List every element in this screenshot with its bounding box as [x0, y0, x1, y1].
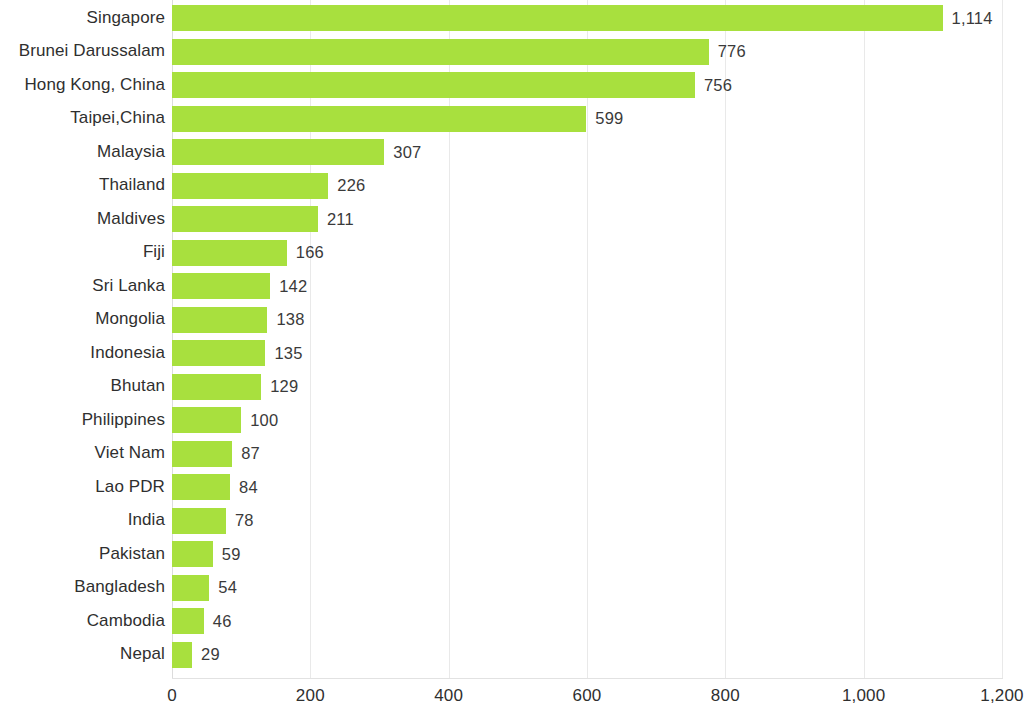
category-label: Bhutan — [0, 376, 165, 396]
category-label: Sri Lanka — [0, 276, 165, 296]
bar[interactable] — [172, 541, 213, 567]
bar-value-label: 29 — [201, 644, 220, 664]
category-label: Pakistan — [0, 544, 165, 564]
bar-row[interactable]: Lao PDR84 — [0, 470, 1033, 504]
category-label: Cambodia — [0, 611, 165, 631]
category-label: Brunei Darussalam — [0, 41, 165, 61]
category-label: Viet Nam — [0, 443, 165, 463]
bar-row[interactable]: Sri Lanka142 — [0, 269, 1033, 303]
bar-value-label: 129 — [270, 376, 298, 396]
bar-value-label: 100 — [250, 410, 278, 430]
category-label: Lao PDR — [0, 477, 165, 497]
x-tick-label: 0 — [167, 684, 177, 708]
bar-value-label: 776 — [718, 41, 746, 61]
bar[interactable] — [172, 608, 204, 634]
bar-value-label: 226 — [337, 175, 365, 195]
category-label: Bangladesh — [0, 577, 165, 597]
bar-value-label: 307 — [393, 142, 421, 162]
bar-row[interactable]: Viet Nam87 — [0, 437, 1033, 471]
bar[interactable] — [172, 106, 586, 132]
category-label: Maldives — [0, 209, 165, 229]
bar[interactable] — [172, 5, 943, 31]
bar[interactable] — [172, 340, 265, 366]
category-label: Hong Kong, China — [0, 75, 165, 95]
bar[interactable] — [172, 374, 261, 400]
bar[interactable] — [172, 441, 232, 467]
bar-value-label: 78 — [235, 510, 254, 530]
category-label: Philippines — [0, 410, 165, 430]
category-label: Indonesia — [0, 343, 165, 363]
bar-row[interactable]: Brunei Darussalam776 — [0, 35, 1033, 69]
bar-row[interactable]: Maldives211 — [0, 202, 1033, 236]
bar-value-label: 59 — [222, 544, 241, 564]
x-axis-tick-labels: 02004006008001,0001,200 — [0, 684, 1033, 714]
bar[interactable] — [172, 642, 192, 668]
bar[interactable] — [172, 307, 267, 333]
category-label: Thailand — [0, 175, 165, 195]
bar-row[interactable]: Bangladesh54 — [0, 571, 1033, 605]
category-label: Taipei,China — [0, 108, 165, 128]
bar[interactable] — [172, 575, 209, 601]
category-label: Mongolia — [0, 309, 165, 329]
bar-row[interactable]: India78 — [0, 504, 1033, 538]
bar-row[interactable]: Bhutan129 — [0, 370, 1033, 404]
bar-row[interactable]: Nepal29 — [0, 638, 1033, 672]
bar-value-label: 211 — [327, 209, 354, 229]
bar-value-label: 87 — [241, 443, 260, 463]
bar-value-label: 599 — [595, 108, 623, 128]
bar-row[interactable]: Indonesia135 — [0, 336, 1033, 370]
bar-row[interactable]: Mongolia138 — [0, 303, 1033, 337]
bar-row[interactable]: Cambodia46 — [0, 604, 1033, 638]
bar-value-label: 135 — [274, 343, 302, 363]
bar-row[interactable]: Thailand226 — [0, 169, 1033, 203]
bar-row[interactable]: Taipei,China599 — [0, 102, 1033, 136]
bar-row[interactable]: Philippines100 — [0, 403, 1033, 437]
bar-row[interactable]: Pakistan59 — [0, 537, 1033, 571]
bar-value-label: 1,114 — [952, 8, 993, 28]
bar-value-label: 756 — [704, 75, 732, 95]
x-axis-line — [172, 678, 1003, 679]
bar-chart: Singapore1,114Brunei Darussalam776Hong K… — [0, 0, 1033, 715]
bar[interactable] — [172, 474, 230, 500]
category-label: Malaysia — [0, 142, 165, 162]
bar[interactable] — [172, 240, 287, 266]
category-label: India — [0, 510, 165, 530]
bar[interactable] — [172, 72, 695, 98]
bar-row[interactable]: Singapore1,114 — [0, 1, 1033, 35]
x-tick-label: 800 — [711, 684, 740, 708]
bar-value-label: 46 — [213, 611, 232, 631]
x-tick-label: 1,000 — [842, 684, 886, 708]
bar[interactable] — [172, 407, 241, 433]
x-tick-label: 200 — [296, 684, 325, 708]
bar[interactable] — [172, 39, 709, 65]
bar-value-label: 142 — [279, 276, 307, 296]
bar-row[interactable]: Malaysia307 — [0, 135, 1033, 169]
bar[interactable] — [172, 173, 328, 199]
bar-value-label: 84 — [239, 477, 258, 497]
x-tick-label: 600 — [573, 684, 602, 708]
x-tick-label: 1,200 — [980, 684, 1024, 708]
bar-rows: Singapore1,114Brunei Darussalam776Hong K… — [0, 0, 1033, 678]
bar[interactable] — [172, 206, 318, 232]
bar-value-label: 166 — [296, 242, 324, 262]
bar[interactable] — [172, 273, 270, 299]
x-tick-label: 400 — [434, 684, 463, 708]
bar[interactable] — [172, 508, 226, 534]
bar[interactable] — [172, 139, 384, 165]
category-label: Fiji — [0, 242, 165, 262]
bar-row[interactable]: Fiji166 — [0, 236, 1033, 270]
category-label: Nepal — [0, 644, 165, 664]
bar-value-label: 138 — [276, 309, 304, 329]
category-label: Singapore — [0, 8, 165, 28]
bar-row[interactable]: Hong Kong, China756 — [0, 68, 1033, 102]
bar-value-label: 54 — [218, 577, 237, 597]
